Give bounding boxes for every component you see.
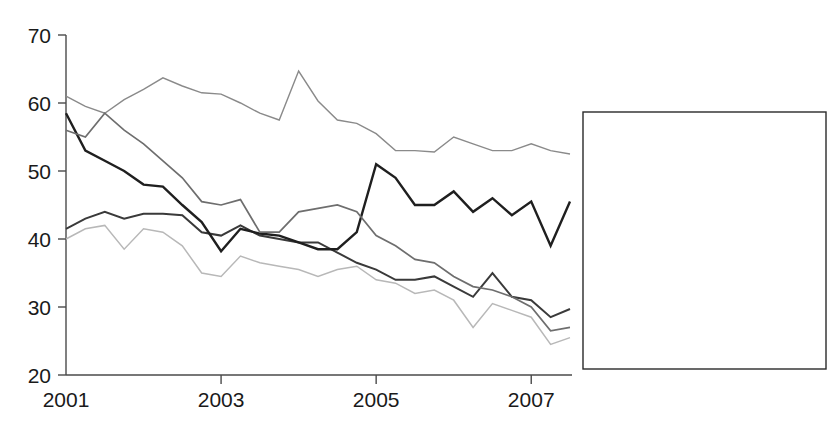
line-chart: 706050403020 2001200320052007 — [0, 0, 833, 429]
y-axis: 706050403020 — [28, 24, 66, 387]
legend-box — [583, 112, 826, 369]
series-line-bse — [66, 113, 570, 331]
chart-legend — [583, 112, 826, 369]
y-tick-label: 40 — [28, 228, 51, 251]
x-tick-label: 2003 — [198, 388, 245, 411]
x-axis: 2001200320052007 — [43, 375, 572, 411]
x-tick-label: 2007 — [508, 388, 555, 411]
x-tick-label: 2005 — [353, 388, 400, 411]
y-tick-label: 60 — [28, 92, 51, 115]
data-series-group — [66, 71, 570, 344]
y-tick-label: 30 — [28, 296, 51, 319]
x-tick-label: 2001 — [43, 388, 90, 411]
y-tick-label: 50 — [28, 160, 51, 183]
chart-canvas: 706050403020 2001200320052007 — [0, 0, 833, 429]
y-tick-label: 70 — [28, 24, 51, 47]
series-line-additives — [66, 212, 570, 317]
y-tick-label: 20 — [28, 364, 51, 387]
